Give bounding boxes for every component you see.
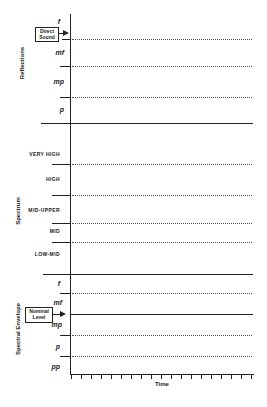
time-tick	[221, 375, 222, 379]
nominal-level-line2: Level	[26, 314, 52, 320]
arrow-right-icon	[63, 30, 69, 36]
time-label: Time	[155, 381, 169, 387]
gridline	[72, 335, 252, 336]
time-tick	[211, 375, 212, 379]
dynamic-mf: mf	[42, 299, 62, 306]
dynamic-f: f	[40, 18, 60, 25]
section-divider	[41, 123, 253, 124]
gridline	[72, 242, 252, 243]
time-tick	[71, 375, 72, 379]
dynamic-f: f	[40, 280, 60, 287]
time-tick	[171, 375, 172, 379]
time-tick	[241, 375, 242, 379]
band-tick	[52, 195, 70, 196]
dynamic-pp: pp	[40, 363, 60, 370]
time-tick	[81, 375, 82, 379]
gridline	[72, 39, 252, 40]
time-tick	[121, 375, 122, 379]
level-tick	[60, 335, 70, 336]
time-tick	[91, 375, 92, 379]
band-low-mid: LOW-MID	[0, 251, 60, 257]
level-tick	[60, 356, 70, 357]
time-tick	[161, 375, 162, 379]
dynamic-p: p	[44, 106, 64, 113]
time-tick	[181, 375, 182, 379]
time-tick	[151, 375, 152, 379]
time-tick	[191, 375, 192, 379]
nominal-level-box: Nominal Level	[25, 307, 53, 323]
time-axis	[70, 374, 254, 375]
band-tick	[52, 223, 70, 224]
level-tick	[60, 97, 70, 98]
band-mid-upper: MID-UPPER	[0, 207, 60, 213]
band-tick	[52, 164, 70, 165]
gridline	[72, 195, 252, 196]
band-very-high: VERY HIGH	[0, 151, 60, 157]
time-tick	[101, 375, 102, 379]
gridline	[72, 223, 252, 224]
band-high: HIGH	[0, 176, 60, 182]
direct-sound-line2: Sound	[36, 34, 58, 40]
gridline	[72, 97, 252, 98]
band-tick	[52, 242, 70, 243]
direct-sound-box: Direct Sound	[35, 27, 59, 42]
level-tick	[60, 293, 70, 294]
time-tick	[131, 375, 132, 379]
level-tick	[60, 66, 70, 67]
band-mid: MID	[0, 228, 60, 234]
gridline	[72, 164, 252, 165]
vertical-axis	[70, 14, 71, 374]
arrow-right-icon	[60, 311, 66, 317]
time-tick	[141, 375, 142, 379]
reflections-label: Reflections	[19, 23, 25, 103]
spectral-envelope-label: Spectral Envelope	[15, 289, 21, 369]
level-tick	[62, 39, 70, 40]
time-tick	[251, 375, 252, 379]
time-tick	[231, 375, 232, 379]
section-divider	[43, 274, 253, 275]
gridline	[72, 66, 252, 67]
gridline	[72, 293, 252, 294]
time-tick	[111, 375, 112, 379]
time-tick	[201, 375, 202, 379]
dynamic-mp: mp	[44, 78, 64, 85]
dynamic-p: p	[40, 343, 60, 350]
dynamic-mf: mf	[44, 49, 64, 56]
gridline	[72, 356, 252, 357]
nominal-level-line	[70, 314, 253, 315]
